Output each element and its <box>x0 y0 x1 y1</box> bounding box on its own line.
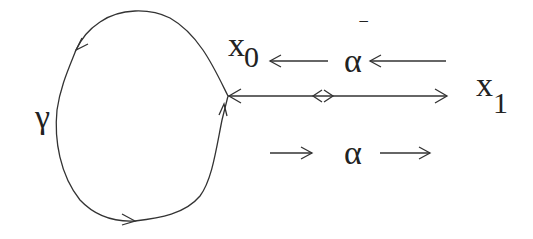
diagram-canvas: γ x 0 x 1 α ‾ α <box>0 0 533 239</box>
gamma-label: γ <box>35 100 50 134</box>
alpha-bar-overline: ‾ <box>360 20 367 42</box>
x1-label-base: x <box>476 66 493 103</box>
x1-label-subscript: 1 <box>493 88 508 118</box>
x1-label: x <box>476 68 493 102</box>
alpha-label: α <box>344 136 362 170</box>
alpha-bar-label: α <box>344 44 362 78</box>
diagram-svg <box>0 0 533 239</box>
gamma-loop-path <box>56 11 228 221</box>
x0-label: x <box>228 28 245 62</box>
gamma-arrowhead-bottom-icon <box>122 214 135 225</box>
x0-label-subscript: 0 <box>244 42 259 72</box>
x0-label-base: x <box>228 26 245 63</box>
